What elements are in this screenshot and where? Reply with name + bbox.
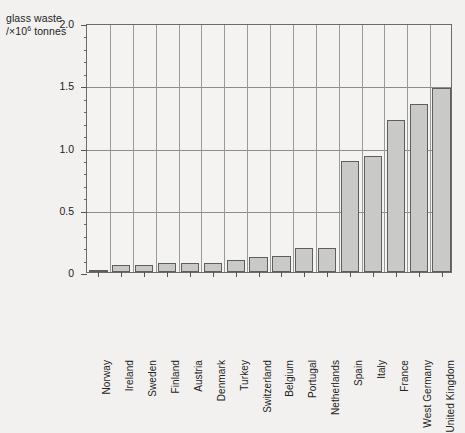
x-axis-category-label: Turkey [239,360,250,391]
y-axis-tick-major [81,150,87,151]
gridline-vertical [156,25,157,272]
x-axis-tick [396,272,397,277]
gridline-vertical [407,25,408,272]
x-axis-category-label: France [399,360,410,392]
y-axis-tick-labels: 00.51.01.52.0 [0,24,84,273]
x-axis-tick [190,272,191,277]
bar [410,104,428,272]
x-axis-category-label: West Germany [422,360,433,428]
x-axis-tick [281,272,282,277]
x-axis-category-label: Finland [170,360,181,394]
y-axis-tick-minor [84,75,87,76]
gridline-vertical [384,25,385,272]
gridline-vertical [133,25,134,272]
y-axis-tick-label: 2.0 [59,18,74,30]
x-axis-category-label: Portugal [307,360,318,398]
gridline-vertical [270,25,271,272]
y-axis-tick-minor [84,137,87,138]
y-axis-tick-label: 1.0 [59,143,74,155]
y-axis-tick-minor [84,125,87,126]
x-axis-category-label: Belgium [284,360,295,397]
x-axis-tick [419,272,420,277]
bar [295,248,313,272]
x-axis-tick [121,272,122,277]
y-axis-tick-minor [84,249,87,250]
x-axis-category-label: Austria [193,360,204,392]
x-axis-tick [304,272,305,277]
gridline-vertical [430,25,431,272]
y-axis-tick-minor [84,237,87,238]
y-axis-tick-minor [84,224,87,225]
bar [364,156,382,272]
x-axis-tick [236,272,237,277]
y-axis-tick-minor [84,112,87,113]
gridline-vertical [362,25,363,272]
x-axis-category-label: Ireland [124,360,135,391]
x-axis-tick [327,272,328,277]
gridline-vertical [339,25,340,272]
gridline-vertical [293,25,294,272]
y-axis-tick-major [81,87,87,88]
x-axis-category-label: Switzerland [262,360,273,413]
x-axis-category-label: Netherlands [330,360,341,415]
x-axis-tick [350,272,351,277]
x-axis-category-label: Sweden [147,360,158,397]
bar [227,260,245,272]
x-axis-category-label: Spain [353,360,364,386]
y-axis-tick-minor [84,162,87,163]
x-axis-tick [144,272,145,277]
y-axis-tick-major [81,25,87,26]
x-axis-tick [259,272,260,277]
bar [341,161,359,272]
x-axis-tick [167,272,168,277]
gridline-vertical [179,25,180,272]
y-axis-tick-minor [84,174,87,175]
bar [181,263,199,272]
y-axis-tick-minor [84,187,87,188]
gridline-vertical [247,25,248,272]
bar [204,263,222,272]
y-axis-tick-major [81,274,87,275]
bar [135,265,153,272]
y-axis-tick-label: 0.5 [59,205,74,217]
x-axis-tick [373,272,374,277]
plot-area [86,24,452,273]
y-axis-tick-minor [84,100,87,101]
y-axis-tick-label: 0 [68,267,74,279]
gridline-vertical [201,25,202,272]
x-axis-category-label: Norway [101,360,112,395]
bar [249,257,267,272]
bar [318,248,336,272]
gridline-vertical [110,25,111,272]
y-axis-tick-label: 1.5 [59,80,74,92]
x-axis-category-label: Denmark [216,360,227,401]
gridline-vertical [316,25,317,272]
y-axis-tick-minor [84,50,87,51]
gridline-vertical [224,25,225,272]
y-axis-tick-major [81,212,87,213]
bar [272,256,290,272]
bar [158,263,176,272]
x-axis-category-label: United Kingdom [445,360,456,433]
bar [432,88,450,272]
y-axis-tick-minor [84,262,87,263]
y-axis-tick-minor [84,199,87,200]
x-axis-tick [442,272,443,277]
x-axis-category-label: Italy [376,360,387,379]
x-axis-category-labels: NorwayIrelandSwedenFinlandAustriaDenmark… [86,278,452,364]
x-axis-tick [213,272,214,277]
y-axis-tick-minor [84,37,87,38]
x-axis-tick [98,272,99,277]
y-axis-tick-minor [84,62,87,63]
gridline-horizontal [87,87,451,88]
bar [112,265,130,272]
bar [387,120,405,272]
